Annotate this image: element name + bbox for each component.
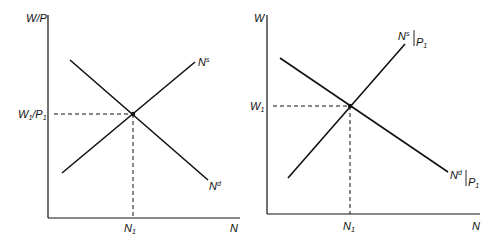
left-panel: W/P N W1/P1 N1 Ns Nd	[18, 12, 240, 235]
left-supply-curve	[62, 62, 195, 173]
right-y-axis-label: W	[254, 12, 266, 24]
svg-text:P1: P1	[468, 176, 479, 189]
right-x-axis-label: N	[472, 220, 480, 232]
right-supply-curve	[288, 44, 405, 178]
right-panel: W N W1 N1 Ns P1 Nd P1	[250, 12, 480, 233]
left-supply-label: Ns	[198, 56, 210, 68]
left-equilibrium-point	[131, 112, 135, 116]
svg-text:Ns: Ns	[398, 30, 410, 42]
left-x-tick-label: N1	[124, 222, 136, 235]
right-demand-label: Nd P1	[450, 169, 479, 189]
right-demand-curve	[280, 58, 448, 172]
left-y-tick-label: W1/P1	[18, 108, 47, 121]
right-equilibrium-point	[348, 104, 352, 108]
svg-text:P1: P1	[416, 36, 427, 49]
svg-text:Nd: Nd	[450, 169, 463, 181]
left-demand-curve	[70, 60, 208, 180]
left-x-axis-label: N	[230, 222, 238, 234]
right-y-tick-label: W1	[250, 100, 264, 113]
right-x-tick-label: N1	[343, 220, 355, 233]
labor-market-diagrams: W/P N W1/P1 N1 Ns Nd W N W1 N1 Ns P1 Nd …	[0, 0, 493, 244]
left-demand-label: Nd	[209, 180, 222, 192]
left-y-axis-label: W/P	[26, 12, 47, 24]
